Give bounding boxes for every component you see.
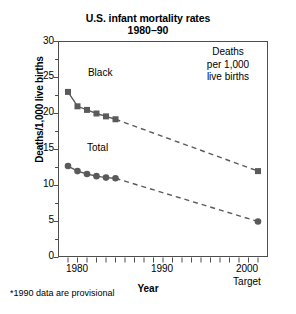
y-tick-label: 10 xyxy=(32,179,54,189)
y-tick-label: 15 xyxy=(32,143,54,153)
x-tick-sublabel-target: Target xyxy=(224,276,270,287)
units-annotation: Deaths per 1,000 live births xyxy=(196,46,260,84)
x-tick-label-1980: 1980 xyxy=(54,263,100,274)
x-tick-label-2000: 2000 xyxy=(224,263,270,274)
units-annotation-line-2: per 1,000 xyxy=(196,59,260,72)
y-tick-label: 5 xyxy=(32,215,54,225)
x-tick-label-1990: 1990 xyxy=(139,263,185,274)
infant-mortality-chart: U.S. infant mortality rates 1980–90 Deat… xyxy=(0,0,296,314)
y-tick-label: 0 xyxy=(32,251,54,261)
units-annotation-line-1: Deaths xyxy=(196,46,260,59)
y-axis-tick-labels: 30 25 20 15 10 5 0 xyxy=(28,0,54,314)
y-tick-label: 30 xyxy=(32,36,54,46)
units-annotation-line-3: live births xyxy=(196,71,260,84)
y-tick-label: 20 xyxy=(32,107,54,117)
series-label-black: Black xyxy=(88,67,112,78)
y-tick-label: 25 xyxy=(32,71,54,81)
footnote: *1990 data are provisional xyxy=(10,288,115,299)
series-label-total: Total xyxy=(87,142,108,153)
